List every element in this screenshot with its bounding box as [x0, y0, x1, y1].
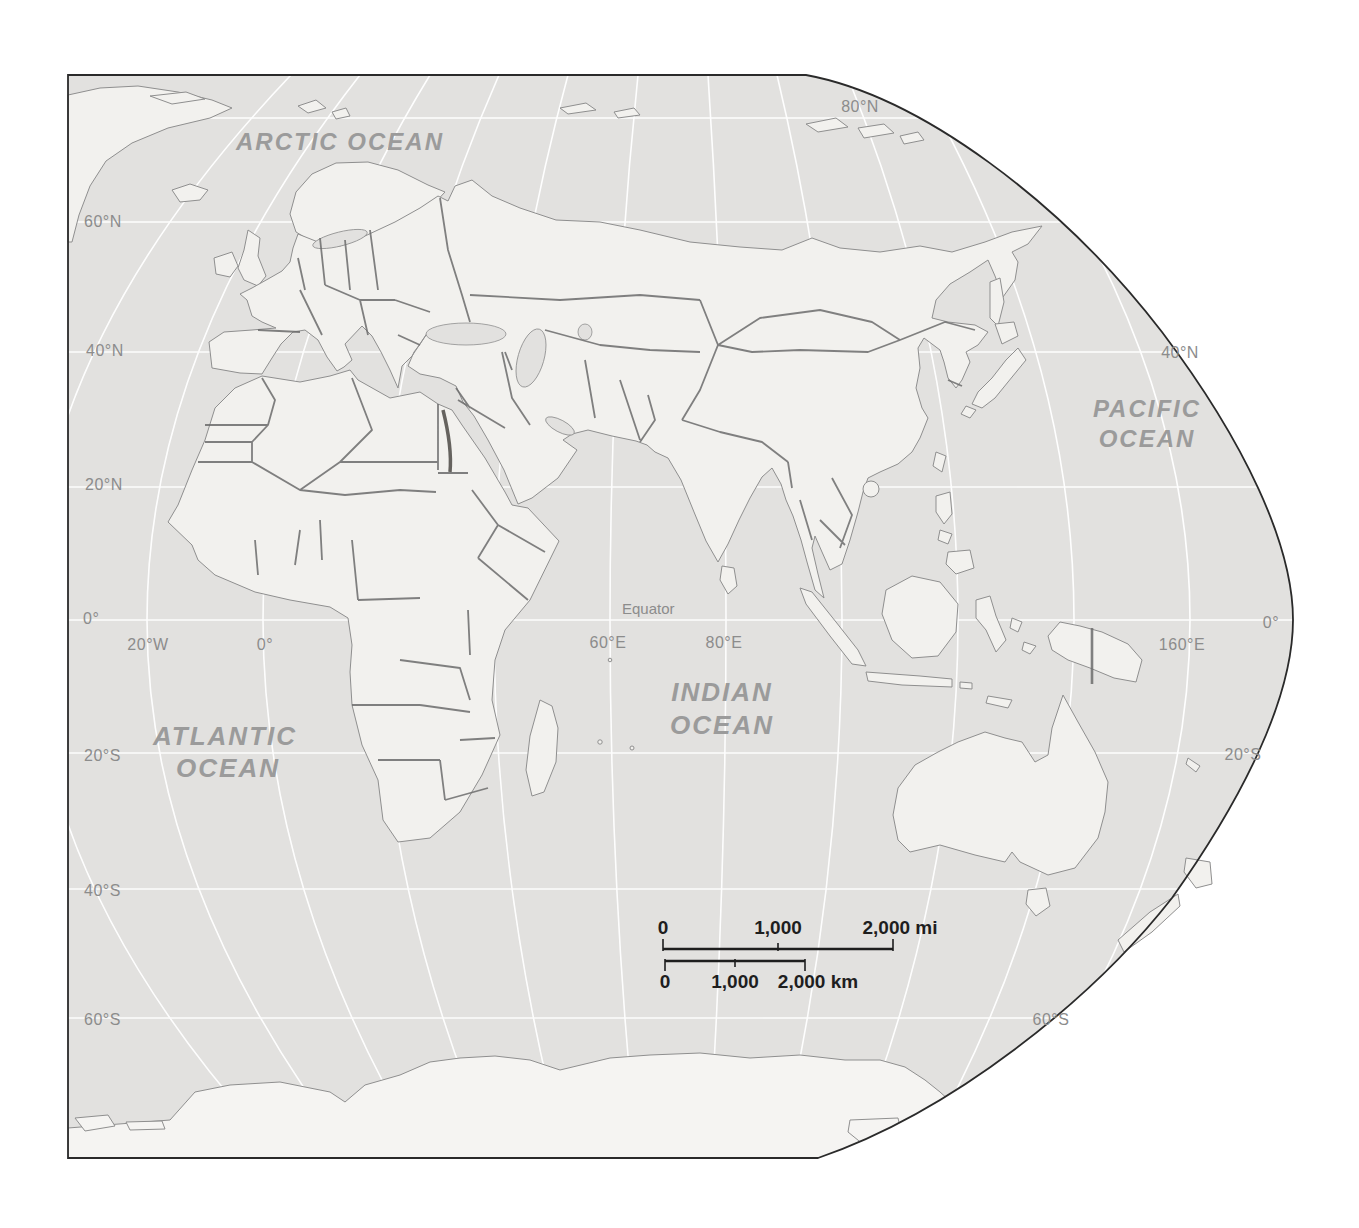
scale-mi-2000: 2,000 mi	[863, 917, 938, 938]
pacific-ocean-label-line2: OCEAN	[1099, 425, 1196, 452]
indian-ocean-label-line1: INDIAN	[671, 677, 773, 707]
lon-label-60e: 60°E	[590, 634, 627, 651]
atlantic-ocean-label-line1: ATLANTIC	[152, 721, 297, 751]
lat-label-0-right: 0°	[1263, 614, 1279, 631]
lon-label-80e: 80°E	[706, 634, 743, 651]
equator-label: Equator	[622, 600, 675, 617]
lat-label-20s-right: 20°S	[1225, 746, 1262, 763]
scale-mi-1000: 1,000	[754, 917, 802, 938]
lat-label-40s-left: 40°S	[84, 882, 121, 899]
atlantic-ocean-label-line2: OCEAN	[176, 753, 280, 783]
scale-mi-0: 0	[658, 917, 669, 938]
lon-label-20w: 20°W	[127, 636, 169, 653]
lat-label-60n-left: 60°N	[84, 213, 122, 230]
pacific-ocean-label-line1: PACIFIC	[1093, 395, 1201, 422]
lat-label-40n-right: 40°N	[1161, 344, 1199, 361]
lat-label-20s-left: 20°S	[84, 747, 121, 764]
lat-label-0-left: 0°	[83, 610, 99, 627]
arctic-ocean-label: ARCTIC OCEAN	[235, 128, 444, 155]
lat-label-20n-left: 20°N	[85, 476, 123, 493]
scale-km-1000: 1,000	[711, 971, 759, 992]
lon-label-0: 0°	[257, 636, 273, 653]
indian-ocean-label-line2: OCEAN	[670, 710, 774, 740]
lat-label-40n-left: 40°N	[86, 342, 124, 359]
map-page: ARCTIC OCEAN PACIFIC OCEAN ATLANTIC OCEA…	[0, 0, 1359, 1228]
lat-label-60s-right: 60°S	[1033, 1011, 1070, 1028]
scale-km-0: 0	[660, 971, 671, 992]
lat-label-80n-right: 80°N	[841, 98, 879, 115]
lat-label-60s-left: 60°S	[84, 1011, 121, 1028]
scale-km-2000: 2,000 km	[778, 971, 858, 992]
world-population-density-map: ARCTIC OCEAN PACIFIC OCEAN ATLANTIC OCEA…	[0, 0, 1359, 1228]
lon-label-160e: 160°E	[1159, 636, 1205, 653]
